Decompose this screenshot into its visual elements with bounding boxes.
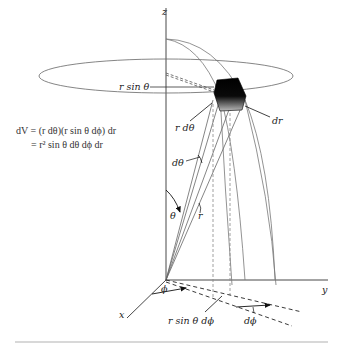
dtheta-arc bbox=[198, 155, 202, 163]
phi-label: ϕ bbox=[161, 283, 168, 294]
spherical-volume-element-figure: z y x r sin θ r dθ dr dθ θ r ϕ r sin θ d… bbox=[0, 0, 342, 349]
volume-equation-line1: dV = (r dθ)(r sin θ dϕ) dr bbox=[16, 125, 117, 137]
dphi-label: dϕ bbox=[244, 315, 257, 326]
dphi-arrow bbox=[236, 305, 270, 307]
volume-element-cube bbox=[214, 78, 246, 111]
projection-dashes bbox=[213, 104, 230, 297]
z-axis-label: z bbox=[161, 6, 168, 17]
y-axis-label: y bbox=[321, 284, 328, 295]
r-label: r bbox=[198, 210, 204, 221]
volume-equation-line2: = r² sin θ dθ dϕ dr bbox=[31, 139, 103, 150]
r-dtheta-leader bbox=[190, 103, 212, 121]
r-dtheta-label: r dθ bbox=[175, 122, 195, 133]
theta-angle-arrow bbox=[166, 190, 180, 212]
x-axis-label: x bbox=[119, 309, 125, 320]
coordinate-axes bbox=[127, 8, 328, 318]
theta-label: θ bbox=[170, 210, 176, 221]
dr-label: dr bbox=[272, 115, 284, 126]
r-sin-theta-dphi-label: r sin θ dϕ bbox=[168, 315, 214, 326]
diagram-canvas: z y x r sin θ r dθ dr dθ θ r ϕ r sin θ d… bbox=[0, 0, 342, 349]
r-sin-theta-label: r sin θ bbox=[119, 81, 150, 92]
dtheta-label: dθ bbox=[172, 157, 184, 168]
r-sin-theta-dashes bbox=[166, 73, 214, 92]
